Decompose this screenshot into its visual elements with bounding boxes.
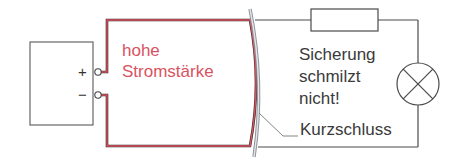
short-circuit-label: Kurzschluss bbox=[300, 119, 392, 140]
fuse-label-line2: schmilzt bbox=[299, 66, 360, 87]
fuse-icon bbox=[311, 9, 378, 31]
plus-sign: + bbox=[78, 64, 87, 79]
high-current-label-line1: hohe bbox=[122, 40, 160, 61]
short-circuit-leader-line bbox=[259, 113, 298, 136]
high-current-label-line2: Stromstärke bbox=[122, 61, 214, 82]
high-current-wires bbox=[101, 20, 256, 146]
lamp-icon bbox=[397, 63, 439, 105]
minus-sign: − bbox=[78, 87, 87, 102]
fuse-label-line1: Sicherung bbox=[299, 44, 376, 65]
plus-terminal bbox=[95, 69, 101, 75]
fuse-label-line3: nicht! bbox=[299, 88, 340, 109]
voltage-source-box bbox=[30, 42, 93, 125]
minus-terminal bbox=[95, 92, 101, 98]
